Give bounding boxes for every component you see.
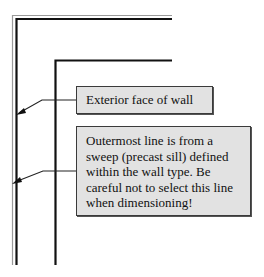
leader-arrow-exterior-face (16, 100, 76, 115)
callout-sweep-warning: Outermost line is from a sweep (precast … (76, 126, 251, 216)
leader-arrow-sweep (12, 171, 76, 184)
wall-diagram: Exterior face of wall Outermost line is … (0, 0, 264, 277)
callout-sweep-warning-text: Outermost line is from a sweep (precast … (86, 133, 233, 210)
callout-exterior-face-text: Exterior face of wall (86, 92, 193, 107)
callout-exterior-face: Exterior face of wall (76, 86, 213, 114)
